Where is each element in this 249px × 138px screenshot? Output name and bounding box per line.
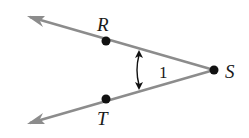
angle-arc-double-arrow-icon [135, 50, 143, 90]
ray-sr [30, 17, 214, 70]
label-r: R [96, 14, 109, 35]
ray-st [30, 70, 214, 123]
angle-label-1: 1 [159, 63, 168, 82]
angle-diagram: R T S 1 [0, 0, 249, 138]
label-s: S [225, 61, 235, 82]
label-t: T [97, 108, 109, 129]
point-r [102, 37, 111, 46]
point-s [210, 66, 219, 75]
point-t [102, 95, 111, 104]
